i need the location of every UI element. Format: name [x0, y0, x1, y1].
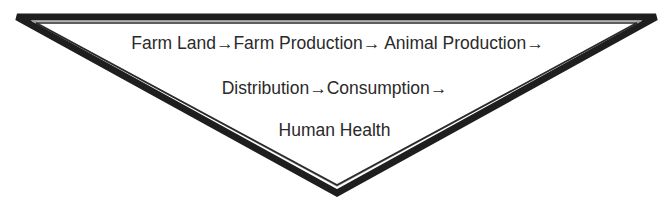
- flow-line-2: Distribution→Consumption→: [0, 78, 669, 99]
- flow-line-3: Human Health: [0, 120, 669, 141]
- inverted-triangle-frame: [0, 0, 669, 201]
- flow-line-1: Farm Land→Farm Production→ Animal Produc…: [3, 33, 669, 54]
